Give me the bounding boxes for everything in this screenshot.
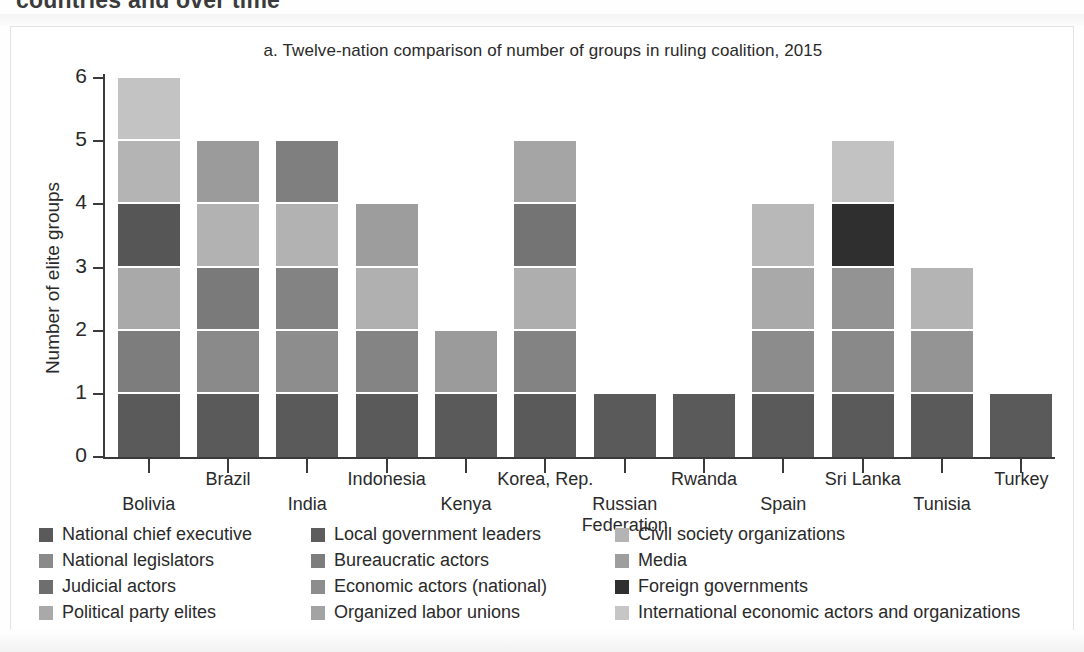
x-axis-label: Bolivia — [122, 494, 175, 515]
bar-segment — [514, 268, 576, 331]
legend-item[interactable]: Media — [615, 548, 1059, 573]
x-axis-tick — [148, 459, 150, 473]
bar-segment — [594, 394, 656, 457]
legend-column: Local government leadersBureaucratic act… — [311, 522, 611, 626]
legend-item[interactable]: Bureaucratic actors — [311, 548, 611, 573]
legend-swatch-icon — [311, 528, 325, 542]
bar-segment — [276, 141, 338, 204]
legend-item[interactable]: Foreign governments — [615, 574, 1059, 599]
y-axis-tick-label: 5 — [57, 127, 87, 151]
y-axis-tick — [93, 393, 103, 395]
y-axis-tick-label: 6 — [57, 64, 87, 88]
bar-segment — [356, 268, 418, 331]
bar-segment — [276, 204, 338, 267]
bar-segment — [197, 394, 259, 457]
bar-segment — [118, 204, 180, 267]
bar-segment — [118, 141, 180, 204]
legend-swatch-icon — [311, 554, 325, 568]
bar-segment — [832, 268, 894, 331]
bar-segment — [356, 204, 418, 267]
legend-swatch-icon — [39, 606, 53, 620]
bar-rwanda[interactable] — [673, 394, 735, 457]
bar-segment — [911, 331, 973, 394]
legend-item[interactable]: Local government leaders — [311, 522, 611, 547]
legend-column: Civil society organizationsMediaForeign … — [615, 522, 1059, 626]
chart-legend: National chief executiveNational legisla… — [29, 522, 1059, 622]
legend-item[interactable]: Economic actors (national) — [311, 574, 611, 599]
plot-area: 0123456 BoliviaBrazilIndiaIndonesiaKenya… — [103, 74, 1055, 459]
y-axis-tick — [93, 456, 103, 458]
bar-segment — [276, 268, 338, 331]
bar-segment — [832, 331, 894, 394]
bar-segment — [832, 204, 894, 267]
legend-label: Judicial actors — [62, 576, 176, 597]
bar-segment — [197, 268, 259, 331]
bar-segment — [197, 141, 259, 204]
legend-item[interactable]: Judicial actors — [39, 574, 309, 599]
legend-swatch-icon — [615, 528, 629, 542]
bar-segment — [752, 394, 814, 457]
x-axis-tick — [624, 459, 626, 473]
bar-kenya[interactable] — [435, 331, 497, 457]
bar-segment — [514, 394, 576, 457]
bar-segment — [118, 331, 180, 394]
x-axis-label: Sri Lanka — [825, 469, 901, 490]
bar-segment — [911, 268, 973, 331]
bar-korea-rep[interactable] — [514, 141, 576, 457]
bar-russian-federation[interactable] — [594, 394, 656, 457]
bar-indonesia[interactable] — [356, 204, 418, 457]
bar-segment — [197, 204, 259, 267]
bar-segment — [435, 394, 497, 457]
legend-column: National chief executiveNational legisla… — [39, 522, 309, 626]
bar-segment — [276, 331, 338, 394]
legend-label: Economic actors (national) — [334, 576, 547, 597]
legend-item[interactable]: Political party elites — [39, 600, 309, 625]
legend-item[interactable]: International economic actors and organi… — [615, 600, 1059, 625]
y-axis-tick — [93, 203, 103, 205]
bar-segment — [276, 394, 338, 457]
x-axis-label: Kenya — [440, 494, 491, 515]
y-axis-title: Number of elite groups — [42, 181, 64, 373]
y-axis-tick — [93, 330, 103, 332]
y-axis-tick — [93, 77, 103, 79]
y-axis-tick-label: 0 — [57, 443, 87, 467]
bar-india[interactable] — [276, 141, 338, 457]
x-axis-label: India — [288, 494, 327, 515]
legend-swatch-icon — [615, 606, 629, 620]
bar-segment — [118, 394, 180, 457]
legend-label: Bureaucratic actors — [334, 550, 489, 571]
legend-item[interactable]: Organized labor unions — [311, 600, 611, 625]
bar-tunisia[interactable] — [911, 268, 973, 457]
x-axis-tick — [782, 459, 784, 473]
x-axis-label-line: Russian — [592, 494, 657, 514]
bar-segment — [435, 331, 497, 394]
bar-segment — [832, 394, 894, 457]
legend-swatch-icon — [39, 528, 53, 542]
legend-item[interactable]: National legislators — [39, 548, 309, 573]
legend-swatch-icon — [39, 580, 53, 594]
legend-item[interactable]: National chief executive — [39, 522, 309, 547]
legend-label: Foreign governments — [638, 576, 808, 597]
bar-segment — [911, 394, 973, 457]
bar-sri-lanka[interactable] — [832, 141, 894, 457]
y-axis-tick — [93, 267, 103, 269]
bar-segment — [118, 268, 180, 331]
bar-brazil[interactable] — [197, 141, 259, 457]
bar-segment — [990, 394, 1052, 457]
bar-spain[interactable] — [752, 204, 814, 457]
chart-panel: a. Twelve-nation comparison of number of… — [10, 26, 1074, 631]
legend-label: Local government leaders — [334, 524, 541, 545]
legend-label: National chief executive — [62, 524, 252, 545]
legend-label: National legislators — [62, 550, 214, 571]
legend-swatch-icon — [39, 554, 53, 568]
legend-item[interactable]: Civil society organizations — [615, 522, 1059, 547]
legend-label: Political party elites — [62, 602, 216, 623]
bar-bolivia[interactable] — [118, 78, 180, 457]
legend-swatch-icon — [311, 606, 325, 620]
y-axis-tick-label: 1 — [57, 380, 87, 404]
bar-turkey[interactable] — [990, 394, 1052, 457]
chart-page: countries and over time a. Twelve-nation… — [0, 0, 1084, 652]
x-axis-tick — [306, 459, 308, 473]
bar-segment — [752, 204, 814, 267]
bar-segment — [356, 394, 418, 457]
